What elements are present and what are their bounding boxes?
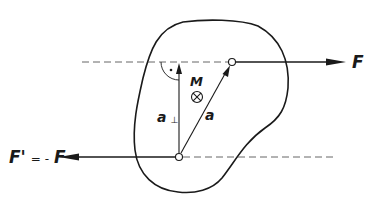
right-angle-marker	[161, 62, 179, 80]
moment-into-page-icon	[192, 92, 203, 103]
perpendicular-distance-arrow	[176, 63, 182, 153]
distance-a-label: a	[205, 107, 214, 123]
force-couple-diagram: F F' = - F M a ⊥ a	[0, 0, 379, 200]
force-f-arrow	[236, 59, 346, 66]
top-application-point	[229, 59, 236, 66]
perpendicular-distance-label: a ⊥	[157, 108, 178, 125]
force-f-prime-arrow	[59, 154, 175, 161]
moment-label: M	[190, 74, 203, 89]
force-f-label: F	[352, 52, 364, 72]
bottom-application-point	[176, 154, 183, 161]
force-f-prime-label: F' = - F	[9, 147, 66, 167]
